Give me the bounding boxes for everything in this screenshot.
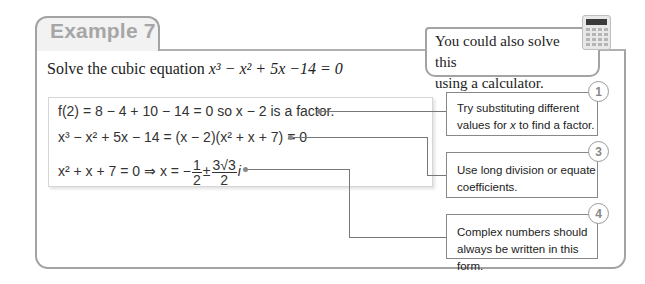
- connector-line-3a: [248, 169, 349, 170]
- connector-line-2c: [427, 175, 446, 176]
- calculator-keys: [586, 28, 608, 46]
- working-line-1: f(2) = 8 − 4 + 10 − 14 = 0 so x − 2 is a…: [58, 103, 334, 119]
- fraction-half: 12: [192, 158, 202, 187]
- callout-box-4: Complex numbers should always be written…: [446, 214, 598, 259]
- line3-lhs: x² + x + 7 = 0 ⇒ x = −: [58, 163, 191, 179]
- imaginary-unit: i: [238, 163, 241, 179]
- problem-statement: Solve the cubic equation x³ − x² + 5x −1…: [47, 60, 343, 78]
- callout-number-4: 4: [588, 203, 609, 224]
- calculator-screen: [586, 19, 607, 25]
- plus-minus: ±: [203, 163, 211, 179]
- calculator-tip-text: You could also solve this using a calcul…: [435, 31, 585, 94]
- connector-line-3b: [349, 169, 350, 237]
- problem-prefix: Solve the cubic equation: [47, 60, 209, 77]
- calculator-tip-line1: You could also solve this: [435, 33, 560, 70]
- callout-box-1: Try substituting different values for x …: [446, 92, 598, 136]
- callout-box-3: Use long division or equate coefficients…: [446, 152, 598, 198]
- calculator-icon: [582, 15, 611, 50]
- connector-line-1: [322, 111, 446, 112]
- example-title: Example 7: [50, 19, 156, 43]
- connector-line-2a: [293, 137, 427, 138]
- problem-equation: x³ − x² + 5x −14 = 0: [209, 60, 343, 77]
- callout-number-3: 3: [588, 141, 609, 162]
- connector-line-3c: [349, 237, 446, 238]
- connector-line-2b: [427, 137, 428, 175]
- callout-number-1: 1: [588, 81, 609, 102]
- working-line-3: x² + x + 7 = 0 ⇒ x = −12±3√32i: [58, 158, 241, 187]
- calculator-tip-line2: using a calculator.: [435, 75, 544, 91]
- fraction-root: 3√32: [212, 158, 237, 187]
- working-line-2: x³ − x² + 5x − 14 = (x − 2)(x² + x + 7) …: [58, 129, 307, 145]
